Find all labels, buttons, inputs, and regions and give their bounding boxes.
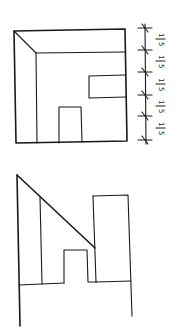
door (59, 107, 82, 143)
svg-text:1: 1 (157, 33, 165, 37)
svg-text:1: 1 (157, 55, 165, 59)
outer-frame (14, 29, 127, 143)
scale-label: 1 5 (156, 55, 165, 68)
roof-slope (17, 175, 95, 248)
scale-bar: 1 5 1 5 1 5 1 5 1 5 (138, 24, 165, 144)
svg-text:1: 1 (157, 78, 165, 82)
floor-right (96, 281, 131, 282)
right-block (93, 195, 132, 316)
scale-axis (145, 24, 146, 144)
ceiling-diagonal (14, 31, 36, 53)
scale-label: 1 5 (156, 78, 165, 91)
right-block-left-edge (93, 196, 96, 282)
tick (138, 91, 152, 99)
scale-label: 1 5 (156, 100, 165, 113)
svg-text:5: 5 (157, 87, 165, 91)
svg-text:5: 5 (157, 109, 165, 113)
interior-elevation-figure (14, 29, 127, 143)
window (89, 75, 126, 98)
door-opening (64, 250, 96, 283)
svg-text:1: 1 (157, 122, 165, 126)
inner-left-line (36, 53, 37, 143)
scale-label: 1 5 (156, 33, 165, 46)
tick (138, 136, 152, 144)
inner-top-line (36, 52, 125, 53)
scale-label: 1 5 (156, 122, 165, 135)
svg-text:1: 1 (157, 100, 165, 104)
svg-text:5: 5 (157, 42, 165, 46)
tick (138, 112, 152, 120)
diagram-canvas: 1 5 1 5 1 5 1 5 1 5 (0, 0, 193, 333)
left-wall (17, 175, 20, 326)
section-profile-figure (17, 175, 132, 326)
inner-wall (40, 197, 42, 284)
svg-text:5: 5 (157, 131, 165, 135)
svg-text:5: 5 (157, 64, 165, 68)
